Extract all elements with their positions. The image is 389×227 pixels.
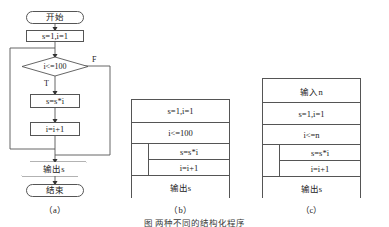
caption-a: （a）	[26, 203, 84, 215]
flowchart-init-label: s=1,i=1	[42, 32, 68, 41]
flowchart-true-branch-label: T	[44, 79, 49, 88]
flowchart-condition-label-wrap: i<=100	[26, 61, 84, 72]
flowchart-start-terminal: 开始	[26, 11, 84, 24]
flowchart-increment-label: i=i+1	[46, 125, 65, 134]
ns-c-row-multiply: s=s*i	[280, 145, 360, 161]
ns-c-row-init: s=1,i=1	[263, 103, 360, 125]
flowchart-multiply-label: s=s*i	[46, 97, 64, 106]
ns-b-row-output: 输出s	[132, 175, 229, 198]
ns-c-row-increment: i=i+1	[280, 161, 360, 176]
ns-diagram-c: 输入n s=1,i=1 i<=n s=s*i i=i+1 输出s	[262, 78, 361, 198]
flowchart-output-node: 输出s	[22, 162, 86, 176]
flowchart-condition-label: i<=100	[43, 62, 66, 71]
ns-c-row-condition: i<=n	[263, 125, 360, 145]
ns-b-row-init: s=1,i=1	[132, 100, 229, 123]
ns-b-row-multiply: s=s*i	[149, 144, 229, 160]
flowchart-init-box: s=1,i=1	[26, 30, 84, 42]
caption-c: （c）	[262, 203, 361, 215]
ns-c-loop-rows: s=s*i i=i+1	[280, 145, 360, 176]
caption-b: （b）	[131, 203, 230, 215]
figure-caption: 图 两种不同的结构化程序	[0, 216, 389, 227]
flowchart-multiply-box: s=s*i	[30, 94, 80, 108]
ns-diagram-b: s=1,i=1 i<=100 s=s*i i=i+1 输出s	[131, 99, 230, 198]
flowchart-start-label: 开始	[46, 13, 64, 22]
ns-b-loop-rows: s=s*i i=i+1	[149, 144, 229, 175]
flowchart-end-label: 结束	[46, 186, 64, 195]
flowchart-end-terminal: 结束	[26, 184, 84, 197]
ns-c-row-output: 输出s	[263, 176, 360, 199]
flowchart-output-label: 输出s	[43, 165, 64, 174]
ns-b-row-increment: i=i+1	[149, 160, 229, 175]
ns-c-loop-body: s=s*i i=i+1	[263, 145, 360, 176]
ns-b-loop-gutter	[132, 144, 149, 175]
flowchart-increment-box: i=i+1	[30, 122, 80, 136]
flowchart-false-branch-label: F	[92, 55, 96, 64]
ns-b-row-condition: i<=100	[132, 123, 229, 144]
ns-b-loop-body: s=s*i i=i+1	[132, 144, 229, 175]
figure-canvas: 开始 s=1,i=1 i<=100 T F s=s*i i=i+1 输出s 结束…	[0, 0, 389, 227]
ns-c-loop-gutter	[263, 145, 280, 176]
ns-c-row-input: 输入n	[263, 79, 360, 103]
